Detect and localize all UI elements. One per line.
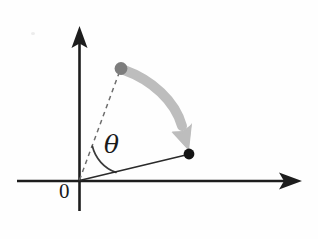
terminal-point-marker (184, 149, 195, 160)
angle-rotation-figure (0, 0, 318, 239)
origin-label: 0 (59, 181, 70, 202)
initial-point-marker (115, 62, 128, 75)
rotation-arrow-shaft (124, 70, 182, 126)
diagram-canvas: 0 θ (0, 0, 318, 239)
terminal-side-solid (80, 155, 189, 181)
rotation-arrow-group (124, 70, 192, 151)
angle-label: θ (104, 132, 119, 157)
initial-side-dashed (80, 71, 121, 181)
